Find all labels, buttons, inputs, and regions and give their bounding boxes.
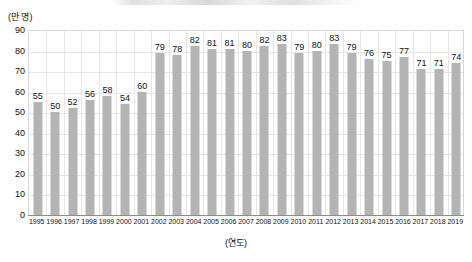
bar-value-label: 79 [347,43,357,52]
x-axis-tick-label: 2011 [308,218,323,226]
plot-area: 5550525658546079788281818082837980837976… [28,30,464,215]
bar-group[interactable]: 79 [343,31,360,215]
x-axis-tick-label: 2006 [221,218,237,226]
bar[interactable] [33,102,42,215]
y-axis-tick-label: 60 [3,88,25,97]
bar-value-label: 77 [399,47,409,56]
x-axis-tick-label: 1996 [46,218,62,226]
bar[interactable] [382,61,391,215]
bar[interactable] [138,92,147,215]
bar-group[interactable]: 78 [169,31,186,215]
bar-group[interactable]: 83 [273,31,290,215]
bar-group[interactable]: 71 [430,31,447,215]
x-axis-tick-label: 2008 [256,218,272,226]
x-axis-tick-label: 2002 [151,218,167,226]
bar-group[interactable]: 79 [291,31,308,215]
bar-value-label: 56 [85,90,95,99]
bar-value-label: 82 [190,36,200,45]
y-axis-tick-label: 90 [3,26,25,35]
bar[interactable] [103,96,112,215]
bar-value-label: 79 [294,43,304,52]
bar-group[interactable]: 82 [256,31,273,215]
bar[interactable] [295,53,304,215]
bar[interactable] [399,57,408,215]
bar[interactable] [86,100,95,215]
bar[interactable] [260,46,269,215]
bar[interactable] [330,44,339,215]
bar[interactable] [434,69,443,215]
bar-value-label: 54 [120,94,130,103]
bar-group[interactable]: 75 [378,31,395,215]
x-axis-baseline [28,215,464,216]
bar[interactable] [347,53,356,215]
x-axis-tick-label: 2003 [168,218,184,226]
bar-group[interactable]: 80 [238,31,255,215]
bar-value-label: 71 [434,59,444,68]
bar[interactable] [51,112,60,215]
x-axis-tick-label: 1998 [81,218,97,226]
bar[interactable] [277,44,286,215]
bar[interactable] [312,51,321,215]
y-axis-tick-labels: 9080706050403020100 [0,0,25,262]
x-axis-tick-label: 2009 [273,218,289,226]
x-axis-tick-label: 2012 [325,218,341,226]
x-axis-tick-label: 2015 [378,218,394,226]
bar-group[interactable]: 71 [413,31,430,215]
x-axis-unit-label: (연도) [0,238,472,249]
bar-group[interactable]: 60 [134,31,151,215]
x-axis-tick-label: 1995 [29,218,45,226]
bar-value-label: 50 [50,102,60,111]
bar-group[interactable]: 82 [186,31,203,215]
y-axis-tick-label: 20 [3,170,25,179]
bar[interactable] [417,69,426,215]
bar-group[interactable]: 81 [203,31,220,215]
bar-value-label: 52 [68,98,78,107]
x-axis-tick-label: 2019 [447,218,463,226]
y-axis-tick-label: 10 [3,190,25,199]
bar[interactable] [452,63,461,215]
bar-value-label: 76 [364,49,374,58]
bar-group[interactable]: 54 [116,31,133,215]
bar[interactable] [208,49,217,216]
bar[interactable] [155,53,164,215]
bar-value-label: 71 [416,59,426,68]
bar[interactable] [190,46,199,215]
x-axis-tick-label: 2007 [238,218,254,226]
bar-group[interactable]: 77 [395,31,412,215]
y-axis-tick-label: 0 [3,211,25,220]
bar-group[interactable]: 81 [221,31,238,215]
bar[interactable] [68,108,77,215]
bar-value-label: 58 [102,86,112,95]
bar-group[interactable]: 80 [308,31,325,215]
bar[interactable] [173,55,182,215]
y-axis-tick-label: 40 [3,129,25,138]
bar[interactable] [225,49,234,216]
x-axis-tick-label: 2010 [291,218,307,226]
bar[interactable] [365,59,374,215]
bars-layer: 5550525658546079788281818082837980837976… [29,31,463,215]
bar-group[interactable]: 76 [360,31,377,215]
x-axis-tick-labels: 1995199619971998199920002001200220032004… [28,218,464,232]
bar-group[interactable]: 58 [99,31,116,215]
bar-group[interactable]: 55 [29,31,46,215]
x-axis-tick-label: 1997 [64,218,80,226]
bar-group[interactable]: 52 [64,31,81,215]
bar-group[interactable]: 74 [448,31,465,215]
bar-value-label: 83 [329,34,339,43]
x-axis-tick-label: 1999 [99,218,115,226]
y-axis-tick-label: 30 [3,149,25,158]
x-axis-tick-label: 2014 [360,218,376,226]
x-axis-tick-label: 2000 [116,218,132,226]
bar-group[interactable]: 50 [46,31,63,215]
scan-artifact-strip [112,0,362,5]
bar-value-label: 80 [312,41,322,50]
bar-group[interactable]: 83 [325,31,342,215]
bar-value-label: 81 [225,39,235,48]
bar[interactable] [242,51,251,215]
bar-group[interactable]: 79 [151,31,168,215]
bar-value-label: 82 [259,36,269,45]
bar-value-label: 78 [172,45,182,54]
bar[interactable] [120,104,129,215]
bar-group[interactable]: 56 [81,31,98,215]
bar-chart-figure: (만 명) 9080706050403020100 55505256585460… [0,0,472,262]
